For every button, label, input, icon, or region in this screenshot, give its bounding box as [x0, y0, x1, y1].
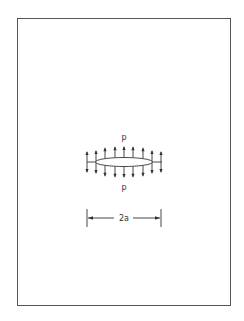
- arrowhead-down-icon: [113, 174, 116, 178]
- arrowhead-down-icon: [131, 174, 134, 178]
- arrowhead-down-icon: [159, 169, 162, 173]
- arrowhead-down-icon: [103, 173, 106, 177]
- arrowhead-up-icon: [103, 147, 106, 151]
- arrowhead-down-icon: [122, 174, 125, 178]
- arrowhead-down-icon: [150, 170, 153, 174]
- arrowhead-up-icon: [94, 150, 97, 154]
- pressure-label-top: p: [121, 133, 126, 142]
- crack-group: [87, 158, 162, 167]
- crack-ellipse: [96, 158, 153, 167]
- arrowhead-left-icon: [88, 216, 93, 219]
- dimension-2a: 2a: [87, 209, 161, 227]
- dimension-label: 2a: [119, 214, 129, 223]
- arrowhead-up-icon: [113, 146, 116, 150]
- arrowhead-up-icon: [85, 151, 88, 155]
- arrowhead-down-icon: [94, 170, 97, 174]
- arrowhead-up-icon: [122, 146, 125, 150]
- arrowhead-up-icon: [150, 150, 153, 154]
- arrowhead-down-icon: [85, 169, 88, 173]
- arrowhead-right-icon: [155, 216, 160, 219]
- arrowhead-down-icon: [141, 173, 144, 177]
- arrowhead-up-icon: [131, 146, 134, 150]
- arrowhead-up-icon: [159, 151, 162, 155]
- figure-canvas: p p 2a: [0, 0, 244, 321]
- pressure-arrows: [85, 146, 162, 178]
- pressure-label-bottom: p: [121, 183, 126, 192]
- figure-frame: [18, 19, 231, 306]
- arrowhead-up-icon: [141, 147, 144, 151]
